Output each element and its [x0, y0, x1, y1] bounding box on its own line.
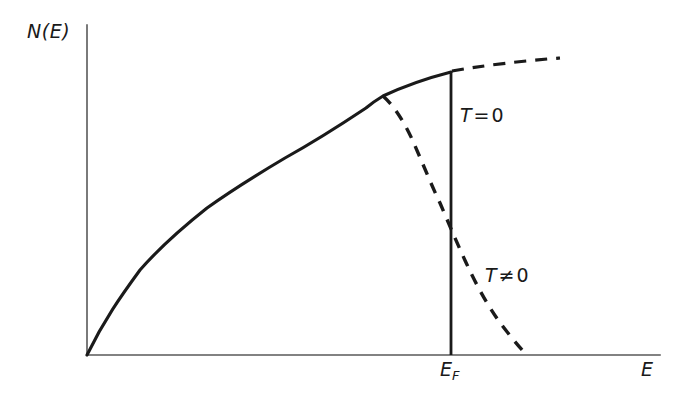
t-nonzero-value: 0: [517, 264, 529, 286]
figure-root: N(E) E EF T=0 T≠0: [0, 0, 681, 402]
t-symbol: T: [485, 264, 497, 286]
y-axis-label: N(E): [27, 22, 70, 41]
dos-dashed-extension: [452, 58, 560, 71]
density-of-states-plot: [0, 0, 681, 402]
equals-operator: =: [472, 104, 492, 126]
t-zero-value: 0: [492, 104, 504, 126]
finite-temperature-label: T≠0: [485, 266, 529, 285]
t-symbol: T: [460, 104, 472, 126]
fermi-energy-base: E: [440, 358, 452, 380]
not-equals-operator: ≠: [497, 264, 517, 286]
fermi-energy-label: EF: [440, 360, 460, 382]
fermi-dirac-dashed-curve: [383, 96, 527, 355]
dos-solid-curve: [87, 72, 451, 355]
zero-temperature-label: T=0: [460, 106, 504, 125]
x-axis-label: E: [641, 360, 653, 379]
fermi-energy-subscript: F: [452, 368, 459, 383]
